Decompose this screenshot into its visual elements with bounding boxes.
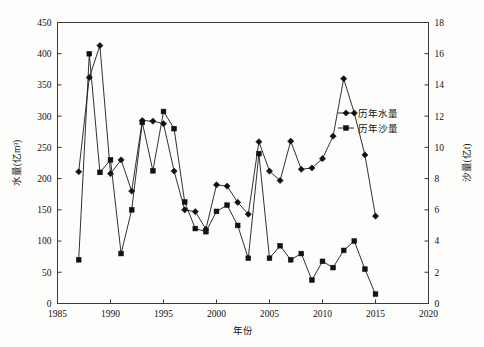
data-point-square <box>182 200 187 205</box>
data-point-square <box>331 265 336 270</box>
data-point-diamond <box>213 182 219 188</box>
y-right-tick-label: 2 <box>435 268 440 278</box>
data-point-square <box>310 278 315 283</box>
data-point-square <box>373 292 378 297</box>
data-point-square <box>108 157 113 162</box>
data-point-square <box>161 109 166 114</box>
data-point-square <box>352 239 357 244</box>
data-point-diamond <box>362 152 368 158</box>
data-point-diamond <box>330 133 336 139</box>
data-point-diamond <box>288 138 294 144</box>
chart-legend: 历年水量历年沙量 <box>338 108 398 134</box>
chart-container: 1985199019952000200520102015202005010015… <box>0 0 484 347</box>
x-tick-label: 1990 <box>101 309 120 319</box>
y-right-tick-label: 4 <box>435 236 440 246</box>
y-left-tick-label: 250 <box>37 143 52 153</box>
y-right-tick-label: 12 <box>435 112 445 122</box>
data-point-diamond <box>372 213 378 219</box>
x-tick-label: 2010 <box>313 309 332 319</box>
data-point-square <box>320 259 325 264</box>
data-point-diamond <box>298 166 304 172</box>
data-point-diamond <box>76 169 82 175</box>
data-point-square <box>267 256 272 261</box>
x-tick-label: 2015 <box>366 309 385 319</box>
y-left-tick-label: 350 <box>37 80 52 90</box>
data-point-square <box>87 51 92 56</box>
legend-marker-square <box>344 126 349 131</box>
y-left-tick-label: 150 <box>37 205 52 215</box>
data-point-square <box>193 226 198 231</box>
data-point-square <box>129 207 134 212</box>
data-point-square <box>288 257 293 262</box>
y-right-tick-label: 8 <box>435 174 440 184</box>
x-tick-label: 2000 <box>207 309 226 319</box>
data-point-square <box>214 209 219 214</box>
series-line <box>79 54 376 294</box>
y-left-tick-label: 50 <box>42 268 52 278</box>
x-tick-label: 1995 <box>154 309 173 319</box>
data-point-diamond <box>97 43 103 49</box>
data-point-diamond <box>192 209 198 215</box>
data-point-square <box>172 126 177 131</box>
data-point-square <box>76 257 81 262</box>
x-tick-label: 2005 <box>260 309 279 319</box>
data-point-diamond <box>224 183 230 189</box>
data-point-square <box>246 256 251 261</box>
y-right-tick-label: 0 <box>435 299 440 309</box>
y-right-tick-label: 6 <box>435 205 440 215</box>
plot-frame-rect <box>58 23 429 304</box>
data-series <box>76 43 379 297</box>
data-point-square <box>257 151 262 156</box>
data-point-square <box>98 170 103 175</box>
y-left-tick-label: 300 <box>37 112 52 122</box>
data-point-square <box>151 168 156 173</box>
y-left-tick-label: 100 <box>37 236 52 246</box>
y-left-tick-label: 400 <box>37 49 52 59</box>
y-left-tick-label: 200 <box>37 174 52 184</box>
data-point-square <box>204 229 209 234</box>
data-point-square <box>278 243 283 248</box>
y-left-axis-title: 水量(亿m³) <box>11 140 23 187</box>
water-sediment-line-chart: 1985199019952000200520102015202005010015… <box>0 0 484 347</box>
y-right-tick-label: 10 <box>435 143 445 153</box>
plot-frame <box>58 23 429 304</box>
x-tick-label: 1985 <box>48 309 67 319</box>
data-point-square <box>341 248 346 253</box>
y-right-tick-label: 18 <box>435 18 445 28</box>
data-point-square <box>299 251 304 256</box>
legend-marker-diamond <box>343 110 349 116</box>
data-point-square <box>235 223 240 228</box>
axis-ticks <box>58 23 429 304</box>
y-left-tick-label: 0 <box>47 299 52 309</box>
axis-tick-labels: 1985199019952000200520102015202005010015… <box>37 18 444 319</box>
data-point-diamond <box>256 139 262 145</box>
data-point-diamond <box>171 168 177 174</box>
data-point-diamond <box>341 76 347 82</box>
y-right-tick-label: 14 <box>435 80 445 90</box>
y-left-tick-label: 450 <box>37 18 52 28</box>
y-right-axis-title: 沙量(亿t) <box>461 144 473 183</box>
data-point-square <box>363 267 368 272</box>
data-point-square <box>119 251 124 256</box>
legend-label-1: 历年水量 <box>358 108 398 119</box>
data-point-diamond <box>150 118 156 124</box>
data-point-square <box>140 120 145 125</box>
series-2 <box>76 51 378 296</box>
x-tick-label: 2020 <box>419 309 438 319</box>
data-point-square <box>225 203 230 208</box>
y-right-tick-label: 16 <box>435 49 445 59</box>
legend-label-2: 历年沙量 <box>358 123 398 134</box>
x-axis-title: 年份 <box>233 325 253 336</box>
